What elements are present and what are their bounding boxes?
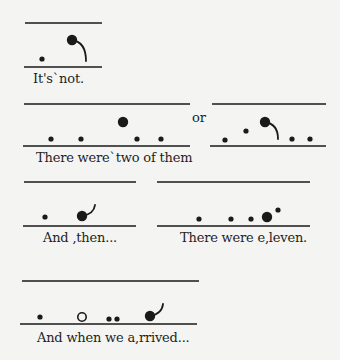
syllable-dot-icon [42, 214, 47, 219]
syllable-dot-icon [307, 136, 312, 141]
stressed-syllable-dot-icon [67, 35, 77, 45]
syllable-dot-icon [275, 207, 280, 212]
figure-its-not [24, 23, 102, 67]
syllable-dot-icon [289, 136, 294, 141]
syllable-dot-icon [39, 56, 44, 61]
syllable-dot-icon [78, 136, 83, 141]
stressed-syllable-dot-icon [145, 311, 155, 321]
figure-caption: There were e,leven. [180, 230, 307, 246]
syllable-dot-icon [228, 216, 233, 221]
syllable-dot-icon [243, 128, 248, 133]
stressed-syllable-dot-icon [118, 117, 128, 127]
or-connector-label: or [192, 110, 206, 126]
intonation-diagram: It's`not.There were`two of themAnd ,then… [0, 0, 340, 360]
figure-caption: And when we a,rrived... [37, 330, 190, 346]
figure-and-then [23, 182, 136, 226]
diagram-canvas [0, 0, 340, 360]
syllable-dot-icon [106, 316, 111, 321]
stressed-syllable-dot-icon [77, 211, 87, 221]
figure-caption: It's`not. [33, 71, 84, 87]
syllable-dot-icon [158, 136, 163, 141]
figure-there-were-eleven [157, 182, 310, 226]
stressed-syllable-dot-icon [262, 212, 272, 222]
syllable-dot-icon [196, 216, 201, 221]
figure-there-were-two-of-them-alt [210, 104, 326, 146]
figure-caption: And ,then... [43, 230, 117, 246]
open-syllable-dot-icon [78, 313, 86, 321]
stressed-syllable-dot-icon [260, 117, 270, 127]
syllable-dot-icon [37, 314, 42, 319]
syllable-dot-icon [248, 216, 253, 221]
figure-caption: There were`two of them [36, 150, 192, 166]
syllable-dot-icon [48, 136, 53, 141]
syllable-dot-icon [134, 136, 139, 141]
figure-and-when-we-arrived [20, 281, 199, 324]
syllable-dot-icon [114, 316, 119, 321]
figure-there-were-two-of-them [23, 104, 190, 146]
syllable-dot-icon [222, 137, 227, 142]
